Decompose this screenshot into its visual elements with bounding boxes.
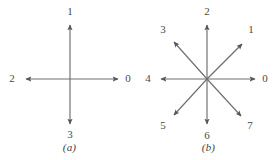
- panel-a-arrows: [26, 25, 118, 124]
- panel-b-arrows: [161, 25, 255, 124]
- direction-label-b-3: 3: [156, 24, 170, 35]
- direction-label-a-1: 1: [63, 6, 77, 17]
- direction-label-b-1: 1: [244, 24, 258, 35]
- direction-label-b-2: 2: [200, 6, 214, 17]
- direction-label-b-7: 7: [243, 120, 257, 131]
- direction-label-b-4: 4: [141, 73, 155, 84]
- panel-a-4-direction: 0 1 2 3 (a): [0, 0, 139, 160]
- panel-a-caption: (a): [0, 141, 139, 154]
- arrow-dir-7: [207, 79, 241, 116]
- direction-label-a-0: 0: [121, 73, 135, 84]
- chain-code-figure: 0 1 2 3 (a) 0 1 2: [0, 0, 278, 160]
- panel-a-diagram: [0, 0, 139, 140]
- direction-label-b-0: 0: [258, 73, 272, 84]
- direction-label-a-2: 2: [5, 73, 19, 84]
- direction-label-b-6: 6: [200, 130, 214, 141]
- arrow-dir-3: [174, 42, 207, 79]
- panel-b-caption: (b): [139, 141, 278, 154]
- arrow-dir-5: [174, 79, 207, 115]
- panel-b-8-direction: 0 1 2 3 4 5 6 7 (b): [139, 0, 278, 160]
- arrow-dir-1: [207, 44, 242, 79]
- direction-label-a-3: 3: [63, 129, 77, 140]
- direction-label-b-5: 5: [156, 120, 170, 131]
